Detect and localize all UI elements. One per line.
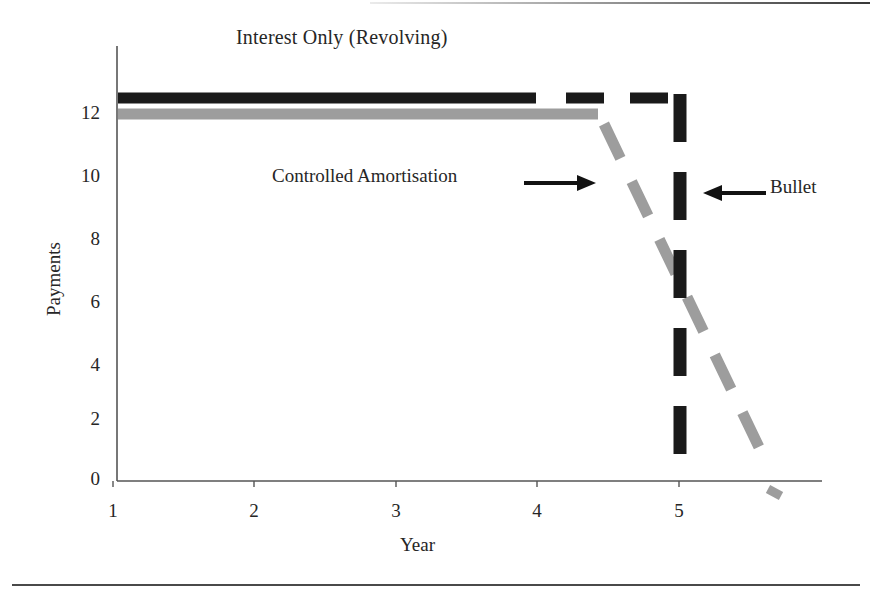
y-tick-label-2: 2 [60, 408, 100, 430]
arrow-bullet-icon [703, 185, 766, 201]
x-tick-label-1: 1 [98, 500, 128, 522]
y-tick-label-8: 8 [60, 228, 100, 250]
x-tick-label-3: 3 [381, 500, 411, 522]
y-tick-label-6: 6 [60, 291, 100, 313]
x-tick-label-4: 4 [522, 500, 552, 522]
y-tick-label-10: 10 [60, 165, 100, 187]
y-tick-label-12: 12 [60, 102, 100, 124]
annotation-controlled-amortisation: Controlled Amortisation [272, 165, 457, 187]
x-axis-label: Year [400, 534, 435, 556]
series-bullet [118, 94, 680, 466]
ca-tail-stub [768, 489, 781, 496]
chart-plot-svg [0, 0, 870, 602]
x-tick-label-5: 5 [664, 500, 694, 522]
y-tick-label-4: 4 [60, 354, 100, 376]
arrow-controlled-amortisation-icon [524, 175, 596, 191]
x-tick-label-2: 2 [239, 500, 269, 522]
y-tick-label-0: 0 [60, 468, 100, 490]
x-axis-tickmarks [113, 481, 679, 487]
annotation-bullet: Bullet [770, 176, 816, 198]
figure-container: Interest Only (Revolving) Payments Year … [0, 0, 870, 602]
chart-title: Interest Only (Revolving) [236, 26, 448, 49]
ca-decline-dashed [604, 124, 770, 470]
